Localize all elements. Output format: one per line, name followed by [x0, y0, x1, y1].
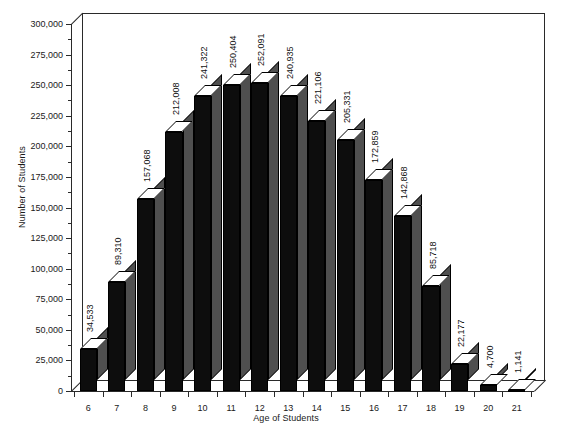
x-tick-label: 12 [255, 403, 265, 413]
x-tick-label: 7 [114, 403, 119, 413]
bar-front-face [422, 286, 439, 391]
bar [508, 13, 536, 391]
y-tick-major [66, 330, 71, 331]
y-tick-label: 125,000 [7, 233, 63, 243]
bar-front-face [308, 121, 325, 391]
bar [337, 13, 365, 391]
bar [223, 13, 251, 391]
bar [137, 13, 165, 391]
x-tick [217, 392, 218, 397]
bar-front-face [451, 364, 468, 391]
bar-value-label: 4,700 [485, 346, 495, 369]
bar [365, 13, 393, 391]
bar-value-label: 157,068 [142, 149, 152, 182]
bar [108, 13, 136, 391]
y-tick-label: 25,000 [7, 355, 63, 365]
x-tick-label: 11 [226, 403, 235, 413]
x-tick [474, 392, 475, 397]
bar-value-label: 241,322 [199, 46, 209, 79]
bar-value-label: 34,533 [85, 304, 95, 332]
bar [480, 13, 508, 391]
y-tick-label: 300,000 [7, 19, 63, 29]
x-tick [274, 392, 275, 397]
x-tick-label: 10 [198, 403, 208, 413]
y-tick-minor [68, 39, 71, 40]
bar-value-label: 89,310 [113, 237, 123, 265]
bar-value-label: 252,091 [256, 33, 266, 66]
x-tick [245, 392, 246, 397]
x-tick-label: 17 [397, 403, 407, 413]
y-tick-major [66, 208, 71, 209]
bar-top-face [480, 374, 508, 385]
x-tick [502, 392, 503, 397]
y-tick-major [66, 24, 71, 25]
bar-side-face [411, 194, 422, 380]
bar [165, 13, 193, 391]
bar [394, 13, 422, 391]
y-tick-major [66, 116, 71, 117]
bar-value-label: 22,177 [456, 319, 466, 347]
bar-side-face [183, 110, 194, 380]
y-tick-minor [68, 223, 71, 224]
y-tick-minor [68, 192, 71, 193]
bar-side-face [354, 118, 365, 380]
x-tick-label: 8 [143, 403, 148, 413]
bar-side-face [325, 99, 336, 380]
x-tick-label: 6 [86, 403, 91, 413]
bar-front-face [337, 140, 354, 391]
y-tick-minor [68, 315, 71, 316]
bar-side-face [154, 177, 165, 380]
bar-value-label: 142,868 [399, 167, 409, 200]
bar-side-face [297, 74, 308, 380]
bar-value-label: 205,331 [342, 90, 352, 123]
y-tick-minor [68, 284, 71, 285]
x-tick [388, 392, 389, 397]
bar-front-face [280, 96, 297, 391]
y-tick-minor [68, 131, 71, 132]
x-tick-label: 18 [426, 403, 436, 413]
bar-top-face [508, 379, 536, 390]
bar-side-face [240, 63, 251, 380]
y-tick-label: 225,000 [7, 111, 63, 121]
bar-value-label: 221,106 [313, 71, 323, 104]
y-tick-label: 275,000 [7, 50, 63, 60]
bar-front-face [165, 132, 182, 391]
bar-side-face [382, 158, 393, 380]
x-tick-label: 16 [369, 403, 379, 413]
y-tick-label: 175,000 [7, 172, 63, 182]
x-tick-label: 14 [312, 403, 322, 413]
y-tick-major [66, 269, 71, 270]
y-tick-major [66, 238, 71, 239]
x-tick [445, 392, 446, 397]
x-tick [131, 392, 132, 397]
x-tick [188, 392, 189, 397]
x-tick [160, 392, 161, 397]
y-tick-major [66, 146, 71, 147]
bar-value-label: 1,141 [513, 350, 523, 373]
bar-side-face [211, 74, 222, 380]
frame-right-edge [544, 13, 545, 381]
bar-side-face [97, 327, 108, 380]
bar-front-face [80, 349, 97, 391]
bar-front-face [223, 85, 240, 391]
x-tick [531, 392, 532, 397]
bar-value-label: 250,404 [228, 35, 238, 68]
y-tick-minor [68, 345, 71, 346]
bar-front-face [365, 180, 382, 391]
x-tick [303, 392, 304, 397]
x-tick-label: 15 [340, 403, 350, 413]
x-tick-label: 9 [171, 403, 176, 413]
bar-chart: Number of Students Age of Students 34,53… [0, 0, 572, 433]
x-tick [417, 392, 418, 397]
y-tick-major [66, 360, 71, 361]
x-tick-label: 21 [512, 403, 522, 413]
plot-area: 34,53389,310157,068212,008241,322250,404… [71, 13, 545, 388]
y-tick-major [66, 177, 71, 178]
bar-front-face [480, 385, 497, 391]
bar-value-label: 240,935 [285, 47, 295, 80]
bar-value-label: 212,008 [171, 82, 181, 115]
x-tick [103, 392, 104, 397]
bar-front-face [394, 216, 411, 391]
frame-front-left-edge [71, 24, 72, 392]
bar-front-face [194, 96, 211, 391]
